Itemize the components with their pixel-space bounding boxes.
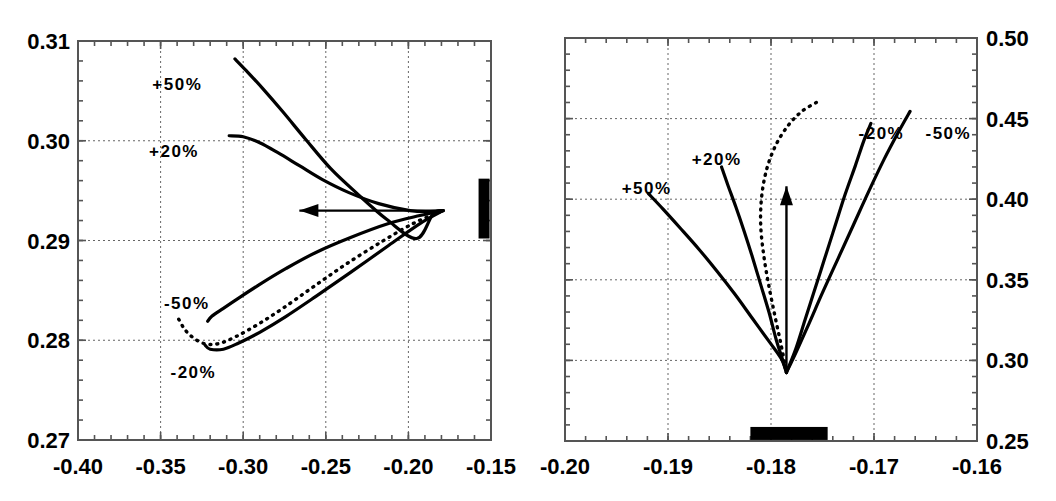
svg-text:+50%: +50% [152, 75, 202, 94]
svg-text:-50%: -50% [164, 294, 210, 313]
svg-text:-0.30: -0.30 [218, 454, 268, 479]
left-panel-annotations: +50%+20%-50%-20% [149, 75, 216, 381]
svg-text:0.45: 0.45 [986, 107, 1029, 132]
left-panel-grid [78, 41, 491, 440]
svg-text:0.25: 0.25 [986, 429, 1029, 454]
curve-+50% [648, 194, 786, 373]
left-panel: +50%+20%-50%-20% -0.40-0.35-0.30-0.25-0.… [0, 0, 528, 501]
left-panel-curves [179, 59, 443, 350]
svg-text:-20%: -20% [859, 124, 905, 143]
svg-text:0.31: 0.31 [27, 29, 70, 54]
svg-text:-0.20: -0.20 [383, 454, 433, 479]
curve--50% [786, 111, 910, 372]
right-panel-annotations: +50%+20%-20%-50% [622, 124, 972, 198]
left-panel-marker-bar [479, 179, 490, 239]
svg-text:+50%: +50% [622, 179, 672, 198]
left-panel-x-tick-labels: -0.40-0.35-0.30-0.25-0.20-0.15 [53, 454, 516, 479]
svg-text:-0.15: -0.15 [466, 454, 516, 479]
svg-text:-20%: -20% [171, 363, 217, 382]
svg-text:0.30: 0.30 [986, 348, 1029, 373]
svg-text:0.27: 0.27 [27, 428, 70, 453]
right-panel-grid [565, 38, 977, 441]
curve-reference [761, 102, 817, 372]
svg-text:-0.40: -0.40 [53, 454, 103, 479]
svg-text:0.29: 0.29 [27, 229, 70, 254]
svg-text:-0.35: -0.35 [136, 454, 186, 479]
figure-container: +50%+20%-50%-20% -0.40-0.35-0.30-0.25-0.… [0, 0, 1056, 501]
curve--20% [786, 123, 870, 372]
right-panel-y-tick-labels: 0.250.300.350.400.450.50 [986, 26, 1029, 454]
left-panel-y-tick-labels: 0.270.280.290.300.31 [27, 29, 70, 453]
svg-text:-0.19: -0.19 [643, 454, 693, 479]
curve-+20% [722, 167, 787, 373]
svg-text:+20%: +20% [149, 142, 199, 161]
right-panel: +50%+20%-20%-50% -0.20-0.19-0.18-0.17-0.… [528, 0, 1056, 501]
svg-text:0.30: 0.30 [27, 129, 70, 154]
svg-text:-0.20: -0.20 [540, 454, 590, 479]
svg-text:-0.17: -0.17 [849, 454, 899, 479]
svg-text:-50%: -50% [926, 124, 972, 143]
svg-text:-0.18: -0.18 [746, 454, 796, 479]
svg-text:0.50: 0.50 [986, 26, 1029, 51]
svg-text:0.35: 0.35 [986, 268, 1029, 293]
right-panel-marker-bar [750, 427, 827, 440]
svg-text:-0.16: -0.16 [952, 454, 1002, 479]
svg-text:-0.25: -0.25 [301, 454, 351, 479]
svg-text:0.40: 0.40 [986, 187, 1029, 212]
svg-text:+20%: +20% [692, 150, 742, 169]
right-panel-x-tick-labels: -0.20-0.19-0.18-0.17-0.16 [540, 454, 1002, 479]
svg-text:0.28: 0.28 [27, 328, 70, 353]
